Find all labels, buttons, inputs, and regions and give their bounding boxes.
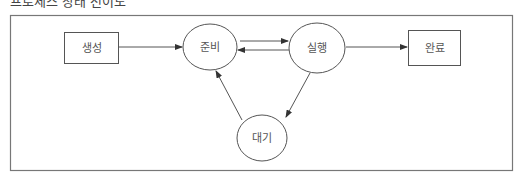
node-running-label: 실행 [307,42,327,55]
node-waiting: 대기 [237,115,287,161]
node-running: 실행 [289,23,345,73]
node-ready: 준비 [183,24,237,70]
state-diagram: 생성 준비 실행 완료 대기 [0,0,522,181]
node-create-label: 생성 [82,42,102,55]
edge-running-to-waiting [286,73,310,117]
edge-waiting-to-ready [216,71,242,120]
node-done-label: 완료 [425,42,445,55]
node-create: 생성 [65,33,119,64]
node-ready-label: 준비 [200,41,220,54]
node-waiting-label: 대기 [252,132,272,145]
node-done: 완료 [409,31,461,66]
